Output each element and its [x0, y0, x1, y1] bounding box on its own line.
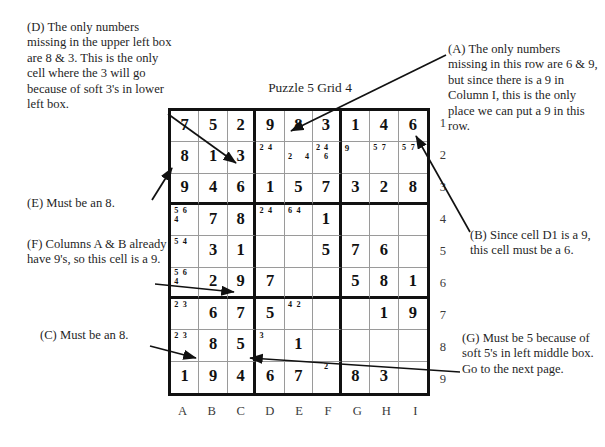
cell-I2[interactable]: 57 — [399, 142, 427, 173]
cell-E6[interactable] — [285, 268, 313, 299]
cell-C5[interactable]: 1 — [228, 236, 256, 267]
pencil-marks: 54 — [172, 237, 197, 265]
cell-E9[interactable]: 7 — [285, 362, 313, 393]
cell-G5[interactable]: 7 — [342, 236, 370, 267]
cell-B5[interactable]: 3 — [199, 236, 227, 267]
cell-G1[interactable]: 1 — [342, 111, 370, 142]
cell-B1[interactable]: 5 — [199, 111, 227, 142]
cell-G4[interactable] — [342, 205, 370, 236]
pencil-marks: 64 — [286, 206, 311, 234]
cell-value: 1 — [285, 337, 312, 354]
cell-F2[interactable]: 246 — [313, 142, 341, 173]
cell-G9[interactable]: 8 — [342, 362, 370, 393]
cell-E2[interactable]: 24 — [285, 142, 313, 173]
cell-E8[interactable]: 1 — [285, 330, 313, 361]
cell-D1[interactable]: 9 — [256, 111, 284, 142]
cell-value: 4 — [228, 369, 253, 386]
cell-F8[interactable] — [313, 330, 341, 361]
cell-I5[interactable] — [399, 236, 427, 267]
cell-A5[interactable]: 54 — [171, 236, 199, 267]
cell-D2[interactable]: 24 — [256, 142, 284, 173]
cell-F6[interactable] — [313, 268, 341, 299]
cell-value: 3 — [199, 243, 226, 260]
cell-E4[interactable]: 64 — [285, 205, 313, 236]
cell-I4[interactable] — [399, 205, 427, 236]
cell-I1[interactable]: 6 — [399, 111, 427, 142]
cell-value: 7 — [171, 118, 198, 135]
cell-E5[interactable] — [285, 236, 313, 267]
cell-value: 2 — [199, 273, 226, 290]
cell-E7[interactable]: 42 — [285, 299, 313, 330]
cell-F7[interactable] — [313, 299, 341, 330]
column-label-A: A — [174, 404, 192, 419]
cell-F5[interactable]: 5 — [313, 236, 341, 267]
cell-H7[interactable]: 1 — [370, 299, 398, 330]
cell-H3[interactable]: 2 — [370, 174, 398, 205]
cell-C8[interactable]: 5 — [228, 330, 256, 361]
cell-H9[interactable]: 3 — [370, 362, 398, 393]
cell-I6[interactable]: 1 — [399, 268, 427, 299]
cell-B9[interactable]: 9 — [199, 362, 227, 393]
cell-I9[interactable] — [399, 362, 427, 393]
cell-A7[interactable]: 23 — [171, 299, 199, 330]
cell-D3[interactable]: 1 — [256, 174, 284, 205]
cell-H8[interactable] — [370, 330, 398, 361]
row-label-7: 7 — [436, 308, 450, 323]
cell-B2[interactable]: 1 — [199, 142, 227, 173]
cell-B3[interactable]: 4 — [199, 174, 227, 205]
cell-F1[interactable]: 3 — [313, 111, 341, 142]
cell-I3[interactable]: 8 — [399, 174, 427, 205]
cell-value: 9 — [199, 369, 226, 386]
cell-G2[interactable]: 9 — [342, 142, 370, 173]
cell-E3[interactable]: 5 — [285, 174, 313, 205]
cell-C2[interactable]: 3 — [228, 142, 256, 173]
sudoku-grid[interactable]: 7529831468132424246957579461573285647824… — [168, 108, 430, 396]
cell-value: 3 — [370, 369, 397, 386]
cell-C4[interactable]: 8 — [228, 205, 256, 236]
cell-F3[interactable]: 7 — [313, 174, 341, 205]
cell-A1[interactable]: 7 — [171, 111, 199, 142]
cell-B7[interactable]: 6 — [199, 299, 227, 330]
cell-F4[interactable]: 1 — [313, 205, 341, 236]
cell-H1[interactable]: 4 — [370, 111, 398, 142]
cell-value: 1 — [199, 149, 226, 166]
cell-C9[interactable]: 4 — [228, 362, 256, 393]
cell-C6[interactable]: 9 — [228, 268, 256, 299]
cell-value: 7 — [285, 369, 312, 386]
cell-A6[interactable]: 564 — [171, 268, 199, 299]
cell-G6[interactable]: 5 — [342, 268, 370, 299]
cell-I8[interactable] — [399, 330, 427, 361]
cell-H2[interactable]: 57 — [370, 142, 398, 173]
cell-E1[interactable]: 8 — [285, 111, 313, 142]
cell-D8[interactable]: 3 — [256, 330, 284, 361]
cell-C1[interactable]: 2 — [228, 111, 256, 142]
cell-I7[interactable]: 9 — [399, 299, 427, 330]
cell-B8[interactable]: 8 — [199, 330, 227, 361]
cell-H5[interactable]: 6 — [370, 236, 398, 267]
cell-B6[interactable]: 2 — [199, 268, 227, 299]
cell-B4[interactable]: 7 — [199, 205, 227, 236]
row-label-8: 8 — [436, 340, 450, 355]
cell-D5[interactable] — [256, 236, 284, 267]
pencil-marks: 24 — [257, 143, 282, 171]
cell-D9[interactable]: 6 — [256, 362, 284, 393]
cell-A8[interactable]: 23 — [171, 330, 199, 361]
column-label-H: H — [377, 404, 395, 419]
cell-G8[interactable] — [342, 330, 370, 361]
cell-G3[interactable]: 3 — [342, 174, 370, 205]
cell-A9[interactable]: 1 — [171, 362, 199, 393]
cell-C7[interactable]: 7 — [228, 299, 256, 330]
cell-A2[interactable]: 8 — [171, 142, 199, 173]
cell-D6[interactable]: 7 — [256, 268, 284, 299]
cell-A3[interactable]: 9 — [171, 174, 199, 205]
cell-A4[interactable]: 564 — [171, 205, 199, 236]
cell-H6[interactable]: 8 — [370, 268, 398, 299]
cell-D4[interactable]: 24 — [256, 205, 284, 236]
cell-H4[interactable] — [370, 205, 398, 236]
cell-value: 2 — [370, 179, 397, 196]
cell-C3[interactable]: 6 — [228, 174, 256, 205]
cell-value: 8 — [370, 273, 397, 290]
cell-G7[interactable] — [342, 299, 370, 330]
cell-F9[interactable]: 2 — [313, 362, 341, 393]
cell-D7[interactable]: 5 — [256, 299, 284, 330]
